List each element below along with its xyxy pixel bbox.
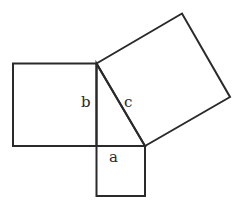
right-triangle [97,64,146,147]
label-c: c [124,93,132,111]
label-a: a [109,148,118,166]
pythagorean-diagram: b c a [0,0,243,207]
label-b: b [81,93,91,111]
square-on-side-a [97,146,146,196]
square-on-hypotenuse-c [97,14,231,147]
